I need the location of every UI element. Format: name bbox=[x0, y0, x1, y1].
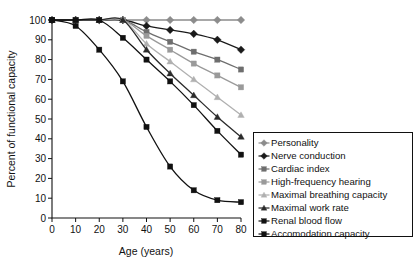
chart-legend: PersonalityNerve conductionCardiac index… bbox=[253, 132, 413, 237]
data-point-marker bbox=[191, 103, 196, 108]
y-axis-tick-label: 30 bbox=[35, 153, 47, 164]
data-point-marker bbox=[73, 17, 78, 22]
y-axis-tick-label: 80 bbox=[35, 54, 47, 65]
data-point-marker bbox=[214, 36, 222, 44]
x-axis-tick-label: 60 bbox=[188, 224, 200, 235]
x-axis-tick-label: 30 bbox=[117, 224, 129, 235]
y-axis-tick-label: 20 bbox=[35, 173, 47, 184]
legend-marker-icon bbox=[258, 215, 270, 227]
legend-item[interactable]: High-frequency hearing bbox=[258, 175, 409, 188]
data-point-marker bbox=[237, 46, 245, 54]
data-point-marker bbox=[238, 67, 243, 72]
data-point-marker bbox=[237, 16, 245, 24]
data-point-marker bbox=[97, 47, 102, 52]
data-point-marker bbox=[238, 152, 243, 157]
data-point-marker bbox=[120, 35, 125, 40]
legend-marker-icon bbox=[258, 189, 270, 201]
legend-item[interactable]: Accomodation capacity bbox=[258, 227, 409, 240]
legend-marker-icon bbox=[258, 202, 270, 214]
data-point-marker bbox=[166, 26, 174, 34]
legend-item[interactable]: Cardiac index bbox=[258, 162, 409, 175]
legend-item[interactable]: Personality bbox=[258, 136, 409, 149]
y-axis-tick-label: 50 bbox=[35, 114, 47, 125]
x-axis-tick-label: 10 bbox=[70, 224, 82, 235]
data-point-marker bbox=[120, 79, 125, 84]
series-group bbox=[48, 16, 245, 205]
data-point-marker bbox=[168, 39, 173, 44]
data-point-marker bbox=[190, 16, 198, 24]
data-point-marker bbox=[166, 16, 174, 24]
x-axis-tick-label: 80 bbox=[235, 224, 247, 235]
legend-item[interactable]: Maximal work rate bbox=[258, 201, 409, 214]
y-axis-tick-label: 60 bbox=[35, 94, 47, 105]
x-axis-tick-label: 50 bbox=[165, 224, 177, 235]
legend-marker-icon bbox=[258, 163, 270, 175]
legend-marker-icon bbox=[258, 137, 270, 149]
data-point-marker bbox=[262, 231, 267, 236]
x-axis-title: Age (years) bbox=[119, 245, 173, 257]
data-point-marker bbox=[215, 128, 220, 133]
legend-item-label: Accomodation capacity bbox=[270, 227, 370, 240]
legend-item-label: Nerve conduction bbox=[270, 149, 346, 162]
y-axis-tick-label: 70 bbox=[35, 74, 47, 85]
data-point-marker bbox=[238, 85, 243, 90]
data-point-marker bbox=[261, 139, 268, 146]
legend-item[interactable]: Renal blood flow bbox=[258, 214, 409, 227]
data-point-marker bbox=[262, 218, 267, 223]
x-axis-tick-label: 20 bbox=[94, 224, 106, 235]
legend-item-label: High-frequency hearing bbox=[270, 175, 371, 188]
legend-marker-icon bbox=[258, 150, 270, 162]
data-point-marker bbox=[168, 79, 173, 84]
data-point-marker bbox=[144, 57, 149, 62]
data-point-marker bbox=[97, 17, 102, 22]
data-point-marker bbox=[73, 23, 78, 28]
x-axis-tick-label: 70 bbox=[212, 224, 224, 235]
data-point-marker bbox=[191, 49, 196, 54]
axes-group: 010203040506070809010001020304050607080 bbox=[29, 15, 247, 235]
legend-item-label: Maximal work rate bbox=[270, 201, 349, 214]
legend-item-label: Personality bbox=[270, 136, 318, 149]
data-point-marker bbox=[262, 166, 267, 171]
y-axis-tick-label: 10 bbox=[35, 193, 47, 204]
legend-item[interactable]: Maximal breathing capacity bbox=[258, 188, 409, 201]
y-axis-tick-label: 100 bbox=[29, 15, 46, 26]
y-axis-tick-label: 0 bbox=[40, 213, 46, 224]
legend-marker-icon bbox=[258, 228, 270, 240]
data-point-marker bbox=[261, 152, 268, 159]
legend-item-label: Renal blood flow bbox=[270, 214, 342, 227]
data-point-marker bbox=[191, 61, 196, 66]
y-axis-tick-label: 40 bbox=[35, 133, 47, 144]
data-point-marker bbox=[215, 57, 220, 62]
data-point-marker bbox=[215, 73, 220, 78]
x-axis-tick-label: 0 bbox=[49, 224, 55, 235]
data-point-marker bbox=[144, 124, 149, 129]
data-point-marker bbox=[168, 47, 173, 52]
chart-figure: 010203040506070809010001020304050607080 … bbox=[0, 0, 419, 261]
data-point-marker bbox=[190, 30, 198, 38]
data-point-marker bbox=[191, 188, 196, 193]
series-line bbox=[52, 19, 241, 155]
data-point-marker bbox=[49, 17, 54, 22]
legend-item-label: Cardiac index bbox=[270, 162, 330, 175]
x-axis-tick-label: 40 bbox=[141, 224, 153, 235]
data-point-marker bbox=[215, 198, 220, 203]
data-point-marker bbox=[262, 179, 267, 184]
y-axis-tick-label: 90 bbox=[35, 34, 47, 45]
legend-item-label: Maximal breathing capacity bbox=[270, 188, 387, 201]
legend-item[interactable]: Nerve conduction bbox=[258, 149, 409, 162]
y-axis-title: Percent of functional capacity bbox=[5, 50, 17, 188]
legend-marker-icon bbox=[258, 176, 270, 188]
data-point-marker bbox=[214, 16, 222, 24]
data-point-marker bbox=[238, 200, 243, 205]
data-point-marker bbox=[143, 22, 151, 30]
data-point-marker bbox=[168, 164, 173, 169]
data-point-marker bbox=[144, 33, 149, 38]
